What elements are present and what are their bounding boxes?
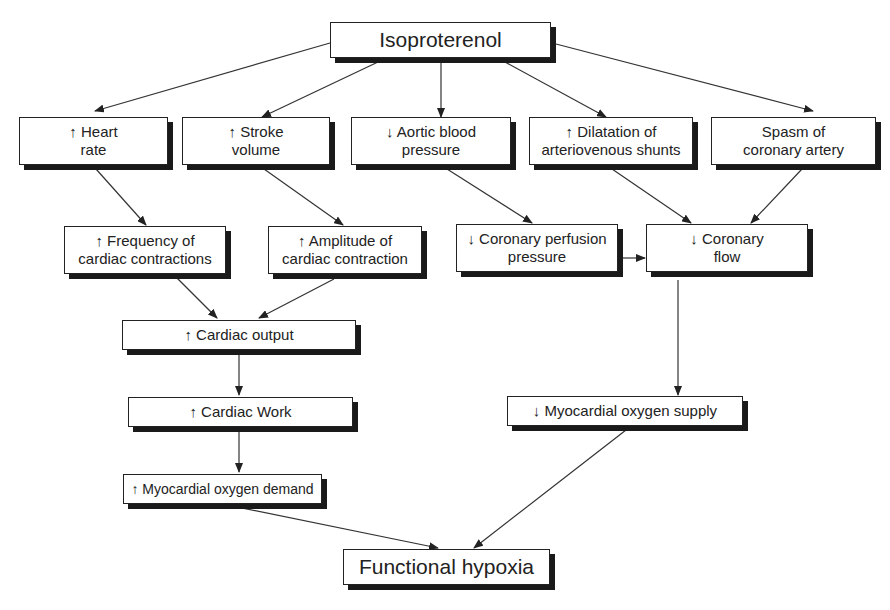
node-label: ↑ Heart [69, 123, 117, 141]
node-label: ↑ Myocardial oxygen demand [131, 480, 313, 498]
node-cardiac-output: ↑ Cardiac output [122, 320, 356, 350]
node-stroke-volume: ↑ Stroke volume [182, 117, 330, 165]
node-label: ↑ Stroke [228, 123, 283, 141]
node-label: volume [232, 141, 280, 159]
node-label: Isoproterenol [379, 31, 502, 49]
node-aortic-blood-pressure: ↓ Aortic blood pressure [351, 117, 511, 165]
node-label: coronary artery [743, 141, 844, 159]
edge-iso-spasm [556, 44, 813, 111]
node-heart-rate: ↑ Heart rate [19, 117, 168, 165]
edge-freq-output [177, 278, 217, 318]
node-coronary-flow: ↓ Coronary flow [646, 224, 808, 272]
edge-heartrate-freq [96, 169, 146, 225]
node-myocardial-oxygen-supply: ↓ Myocardial oxygen supply [507, 396, 743, 426]
node-label: Spasm of [762, 123, 825, 141]
edge-iso-stroke [262, 62, 378, 117]
node-label: pressure [508, 248, 566, 266]
node-label: cardiac contractions [78, 250, 211, 268]
edge-spasm-flow [751, 169, 802, 223]
edge-aortic-perfusion [447, 169, 532, 223]
node-frequency-contractions: ↑ Frequency of cardiac contractions [64, 226, 226, 274]
node-label: ↑ Frequency of [95, 232, 194, 250]
node-myocardial-oxygen-demand: ↑ Myocardial oxygen demand [123, 474, 322, 504]
node-label: ↓ Aortic blood [386, 123, 476, 141]
node-label: Functional hypoxia [359, 558, 534, 576]
edge-iso-shunts [505, 62, 606, 117]
node-arteriovenous-shunts: ↑ Dilatation of arteriovenous shunts [529, 117, 693, 165]
node-label: flow [714, 248, 741, 266]
node-label: ↑ Dilatation of [566, 123, 657, 141]
edge-stroke-amp [264, 169, 343, 225]
edge-shunts-flow [612, 169, 691, 223]
node-label: ↑ Cardiac output [184, 326, 293, 344]
node-amplitude-contraction: ↑ Amplitude of cardiac contraction [268, 226, 422, 274]
edge-demand-hypoxia [237, 507, 438, 548]
node-label: pressure [402, 141, 460, 159]
node-label: arteriovenous shunts [541, 141, 680, 159]
node-label: ↓ Coronary [690, 230, 763, 248]
node-isoproterenol: Isoproterenol [330, 22, 551, 58]
edges-layer [0, 0, 890, 610]
node-label: ↑ Amplitude of [298, 232, 392, 250]
edge-amp-output [259, 279, 334, 318]
edge-supply-hypoxia [474, 430, 626, 548]
node-coronary-spasm: Spasm of coronary artery [711, 117, 876, 165]
node-coronary-perfusion-pressure: ↓ Coronary perfusion pressure [456, 224, 618, 272]
node-label: ↓ Myocardial oxygen supply [533, 402, 717, 420]
node-functional-hypoxia: Functional hypoxia [343, 549, 550, 585]
node-label: rate [81, 141, 107, 159]
node-label: ↑ Cardiac Work [189, 403, 291, 421]
node-label: ↓ Coronary perfusion [467, 230, 606, 248]
node-cardiac-work: ↑ Cardiac Work [128, 397, 353, 427]
node-label: cardiac contraction [282, 250, 408, 268]
edge-iso-heartrate [95, 43, 330, 111]
